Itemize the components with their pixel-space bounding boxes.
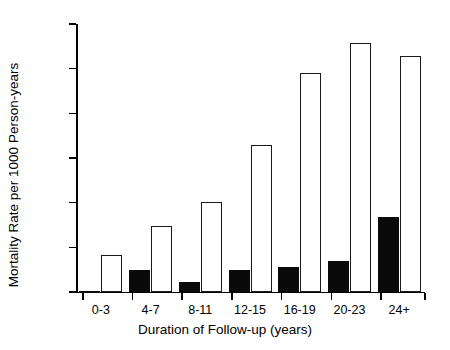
x-tick-label: 20-23 xyxy=(333,303,365,317)
x-tick-mark xyxy=(380,293,382,300)
x-tick-mark xyxy=(424,293,426,300)
y-axis-title: Mortality Rate per 1000 Person-years xyxy=(0,0,26,350)
bar-open xyxy=(350,43,371,292)
y-tick-mark xyxy=(69,68,76,70)
bar-filled xyxy=(328,261,349,292)
x-tick-mark xyxy=(132,293,134,300)
bar-open xyxy=(101,255,122,292)
y-tick-mark xyxy=(69,23,76,25)
x-axis-title: Duration of Follow-up (years) xyxy=(0,322,450,337)
bar-filled xyxy=(79,291,100,293)
x-tick-mark xyxy=(82,293,84,300)
bar-open xyxy=(251,145,272,292)
y-tick-mark xyxy=(69,291,76,293)
y-tick-mark xyxy=(69,247,76,249)
bar-filled xyxy=(129,270,150,292)
x-tick-mark xyxy=(331,293,333,300)
x-tick-label: 4-7 xyxy=(142,303,160,317)
bar-open xyxy=(151,226,172,292)
bar-filled xyxy=(179,282,200,292)
x-tick-label: 24+ xyxy=(389,303,410,317)
bar-filled xyxy=(378,217,399,292)
x-tick-mark xyxy=(231,293,233,300)
x-tick-label: 12-15 xyxy=(234,303,266,317)
bar-filled xyxy=(278,267,299,292)
x-tick-mark xyxy=(181,293,183,300)
y-tick-mark xyxy=(69,113,76,115)
bar-open xyxy=(300,73,321,292)
x-tick-label: 16-19 xyxy=(284,303,316,317)
x-tick-label: 0-3 xyxy=(92,303,110,317)
plot-area xyxy=(76,24,424,292)
x-tick-label: 8-11 xyxy=(188,303,212,317)
y-tick-mark xyxy=(69,202,76,204)
x-tick-mark xyxy=(281,293,283,300)
bar-open xyxy=(400,56,421,292)
bar-filled xyxy=(229,270,250,292)
y-tick-mark xyxy=(69,157,76,159)
bar-open xyxy=(201,202,222,292)
chart-figure: Mortality Rate per 1000 Person-years 010… xyxy=(0,0,450,350)
